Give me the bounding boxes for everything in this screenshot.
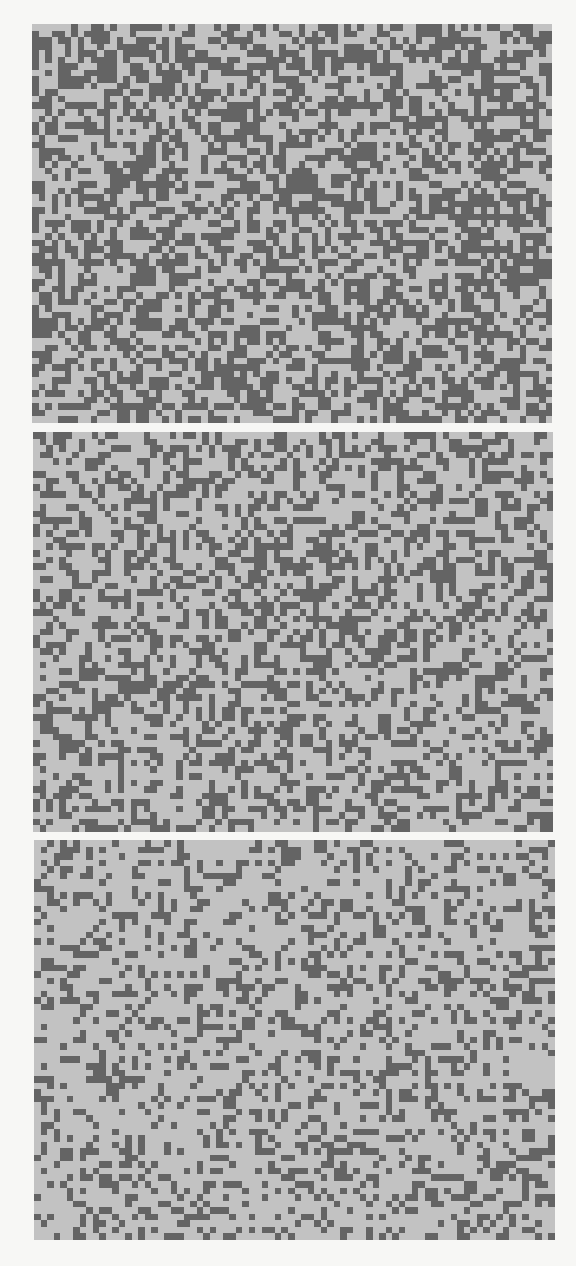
lattice-panel-bottom <box>34 840 555 1240</box>
lattice-panel-middle <box>33 432 553 832</box>
lattice-grid-middle <box>33 432 553 832</box>
lattice-grid-bottom <box>34 840 555 1240</box>
lattice-panel-top <box>32 24 552 423</box>
lattice-grid-top <box>32 24 552 423</box>
